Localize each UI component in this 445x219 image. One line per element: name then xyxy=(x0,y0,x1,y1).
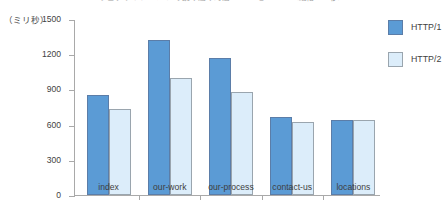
y-tick-label: 300 xyxy=(47,155,61,166)
chart-title: ウェブサイト5ページの読み込み時間 HTTP/1とHTTP/2（縦軸ミリ秒） xyxy=(0,0,445,2)
legend-item-http1: HTTP/1 xyxy=(388,20,441,35)
legend-label-http1: HTTP/1 xyxy=(411,22,441,33)
bar-our-process-HTTP1 xyxy=(209,58,231,195)
chart-figure: ウェブサイト5ページの読み込み時間 HTTP/1とHTTP/2（縦軸ミリ秒） （… xyxy=(0,0,445,219)
x-axis-label-contact-us: contact-us xyxy=(272,182,312,193)
plot-area: 030060090012001500 xyxy=(74,20,380,196)
y-tick-label: 0 xyxy=(56,190,61,201)
x-axis-label-our-work: our-work xyxy=(153,182,186,193)
x-tick xyxy=(200,196,201,200)
x-axis-label-index: index xyxy=(98,182,119,193)
bar-our-process-HTTP2 xyxy=(231,92,253,195)
y-tick: 0 xyxy=(69,196,75,197)
legend-swatch-http1 xyxy=(388,20,403,35)
y-tick: 300 xyxy=(69,161,75,162)
x-axis-label-locations: locations xyxy=(336,182,370,193)
y-tick: 900 xyxy=(69,90,75,91)
y-tick: 1200 xyxy=(69,55,75,56)
x-tick xyxy=(139,196,140,200)
y-tick: 1500 xyxy=(69,20,75,21)
x-tick xyxy=(323,196,324,200)
bar-index-HTTP1 xyxy=(87,95,109,195)
y-axis-line xyxy=(74,20,75,196)
legend-item-http2: HTTP/2 xyxy=(388,52,441,67)
y-tick-label: 600 xyxy=(47,120,61,131)
legend-swatch-http2 xyxy=(388,52,403,67)
x-axis-line xyxy=(74,195,380,196)
legend-label-http2: HTTP/2 xyxy=(411,54,441,65)
bar-our-work-HTTP1 xyxy=(148,40,170,195)
y-tick: 600 xyxy=(69,126,75,127)
y-tick-label: 1500 xyxy=(42,14,61,25)
bar-our-work-HTTP2 xyxy=(170,78,192,195)
y-tick-label: 1200 xyxy=(42,49,61,60)
x-tick xyxy=(262,196,263,200)
x-axis-label-our-process: our-process xyxy=(208,182,253,193)
y-tick-label: 900 xyxy=(47,84,61,95)
